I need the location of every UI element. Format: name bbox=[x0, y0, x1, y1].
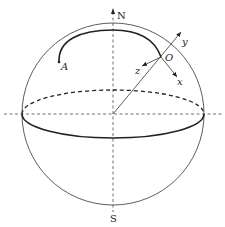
trajectory-arc bbox=[59, 30, 161, 62]
origin-label: O bbox=[165, 52, 173, 63]
y-axis-label: y bbox=[181, 36, 188, 47]
radius-line bbox=[113, 32, 181, 114]
point-a-dot bbox=[58, 61, 61, 64]
point-a-label: A bbox=[60, 61, 68, 72]
north-label: N bbox=[117, 10, 126, 21]
z-axis-label: z bbox=[134, 65, 141, 76]
celestial-sphere-diagram: N S A O y x z bbox=[0, 0, 225, 227]
south-label: S bbox=[110, 213, 117, 224]
z-axis-arrow bbox=[142, 57, 161, 66]
x-axis-label: x bbox=[177, 76, 183, 87]
north-arrow-icon bbox=[111, 8, 115, 14]
